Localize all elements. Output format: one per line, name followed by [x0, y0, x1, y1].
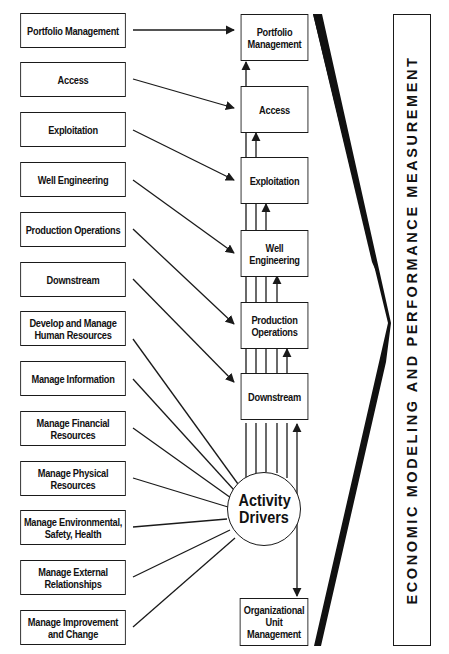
function-box-improvement-change[interactable]: Manage Improvement and Change: [20, 610, 126, 645]
function-box-environmental-safety-health[interactable]: Manage Environmental, Safety, Health: [20, 510, 126, 545]
process-box-access[interactable]: Access: [241, 86, 309, 133]
arrow-well-engineering: [133, 180, 234, 253]
process-label: Well Engineering: [242, 242, 308, 266]
arrow-downstream: [133, 279, 234, 382]
arrow-exploitation: [133, 130, 234, 180]
banner-label: ECONOMIC MODELING AND PERFORMANCE MEASUR…: [404, 55, 420, 604]
function-label: Well Engineering: [38, 174, 109, 186]
arrow-access: [133, 79, 234, 108]
connector-line: [133, 379, 234, 490]
function-label: Manage Improvement and Change: [21, 616, 125, 640]
function-label: Manage Environmental, Safety, Health: [21, 516, 125, 540]
process-label: Portfolio Management: [242, 26, 308, 50]
function-box-exploitation[interactable]: Exploitation: [20, 112, 126, 147]
hub-label: Activity Drivers: [239, 492, 290, 526]
connector-line: [133, 339, 238, 484]
function-box-production-operations[interactable]: Production Operations: [20, 212, 126, 247]
connector-line: [133, 519, 227, 527]
process-box-well-engineering[interactable]: Well Engineering: [241, 230, 309, 277]
function-box-information[interactable]: Manage Information: [20, 361, 126, 396]
chevron-shape: [313, 14, 391, 646]
function-label: Access: [58, 74, 89, 86]
process-label: Access: [259, 104, 290, 116]
function-label: Manage External Relationships: [21, 566, 125, 590]
function-label: Manage Financial Resources: [21, 417, 125, 441]
function-label: Develop and Manage Human Resources: [21, 317, 125, 341]
process-label: Exploitation: [250, 175, 300, 187]
connector-line: [133, 530, 230, 577]
function-box-downstream[interactable]: Downstream: [20, 262, 126, 297]
connector-line: [133, 478, 228, 507]
economic-modeling-banner: ECONOMIC MODELING AND PERFORMANCE MEASUR…: [393, 14, 431, 646]
process-box-exploitation[interactable]: Exploitation: [241, 157, 309, 204]
function-label: Manage Physical Resources: [21, 467, 125, 491]
function-label: Manage Information: [31, 373, 114, 385]
arrow-production: [133, 229, 234, 324]
process-label: Production Operations: [242, 314, 308, 338]
function-box-human-resources[interactable]: Develop and Manage Human Resources: [20, 311, 126, 346]
function-box-financial-resources[interactable]: Manage Financial Resources: [20, 411, 126, 446]
activity-drivers-hub[interactable]: Activity Drivers: [227, 472, 301, 546]
function-box-physical-resources[interactable]: Manage Physical Resources: [20, 461, 126, 496]
connector-line: [133, 428, 231, 498]
process-box-production-operations[interactable]: Production Operations: [241, 302, 309, 349]
function-box-access[interactable]: Access: [20, 62, 126, 97]
function-label: Exploitation: [48, 124, 98, 136]
function-box-well-engineering[interactable]: Well Engineering: [20, 162, 126, 197]
org-unit-label: Organizational Unit Management: [241, 604, 308, 640]
function-label: Production Operations: [26, 224, 121, 236]
function-box-portfolio-management[interactable]: Portfolio Management: [20, 13, 126, 48]
process-label: Downstream: [248, 391, 301, 403]
process-box-downstream[interactable]: Downstream: [241, 373, 309, 420]
process-box-portfolio-management[interactable]: Portfolio Management: [241, 14, 309, 61]
function-box-external-relationships[interactable]: Manage External Relationships: [20, 560, 126, 595]
function-label: Portfolio Management: [27, 25, 119, 37]
connector-line: [133, 538, 235, 627]
org-unit-management-box[interactable]: Organizational Unit Management: [240, 598, 309, 646]
function-label: Downstream: [47, 274, 100, 286]
